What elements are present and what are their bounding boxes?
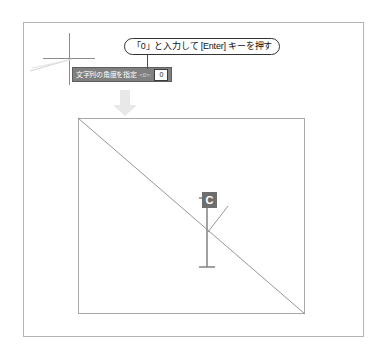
command-default-value: <0>: <box>139 71 151 79</box>
point-label-c: C <box>202 192 217 208</box>
label-leader-line <box>208 206 228 232</box>
command-input-value: 0 <box>159 71 163 79</box>
command-prompt-label: 文字列の角度を指定 <box>76 70 136 79</box>
callout-leader-line <box>147 55 148 69</box>
instruction-callout: 「0」と入力して [Enter] キーを押す <box>124 38 280 55</box>
diagonal-line <box>78 118 305 314</box>
drawing-geometry <box>78 118 305 314</box>
tutorial-figure: 文字列の角度を指定 <0>: 0 「0」と入力して [Enter] キーを押す … <box>0 0 384 359</box>
instruction-callout-text: 「0」と入力して [Enter] キーを押す <box>132 41 272 52</box>
text-insertion-cursor <box>199 198 215 267</box>
point-label-c-text: C <box>206 194 214 206</box>
rubber-band-ghost-line <box>30 58 72 72</box>
command-prompt-bar[interactable]: 文字列の角度を指定 <0>: 0 <box>72 67 172 82</box>
arrow-down-icon <box>112 90 138 117</box>
command-input-field[interactable]: 0 <box>154 69 168 81</box>
